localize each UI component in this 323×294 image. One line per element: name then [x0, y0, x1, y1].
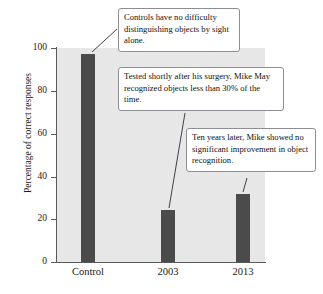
annotation-2003: Tested shortly after his surgery, Mike M…	[118, 67, 284, 111]
annotation-2013: Ten years later, Mike showed no signific…	[186, 128, 316, 172]
bar-chart-figure: 100 80 60 40 20 0 Percentage of correct …	[0, 0, 323, 294]
annotation-controls: Controls have no difficulty distinguishi…	[118, 8, 240, 52]
